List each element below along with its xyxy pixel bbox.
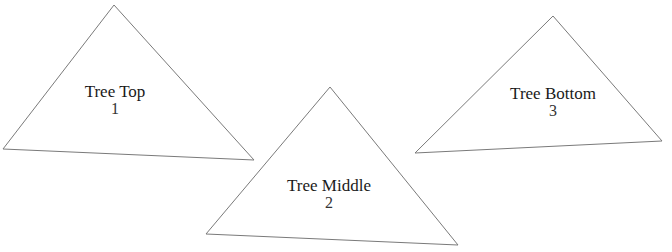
tree-top-title: Tree Top: [85, 83, 146, 100]
tree-bottom-number: 3: [510, 102, 596, 119]
tree-bottom-label: Tree Bottom 3: [510, 85, 596, 119]
triangle-tree-middle[interactable]: [206, 87, 458, 245]
tree-bottom-title: Tree Bottom: [510, 85, 596, 102]
tree-middle-label: Tree Middle 2: [287, 177, 371, 211]
tree-top-label: Tree Top 1: [85, 83, 146, 117]
tree-middle-number: 2: [287, 194, 371, 211]
diagram-canvas: Tree Top 1 Tree Middle 2 Tree Bottom 3: [0, 0, 672, 252]
tree-top-number: 1: [85, 100, 146, 117]
tree-middle-title: Tree Middle: [287, 177, 371, 194]
triangles-layer: [0, 0, 672, 252]
